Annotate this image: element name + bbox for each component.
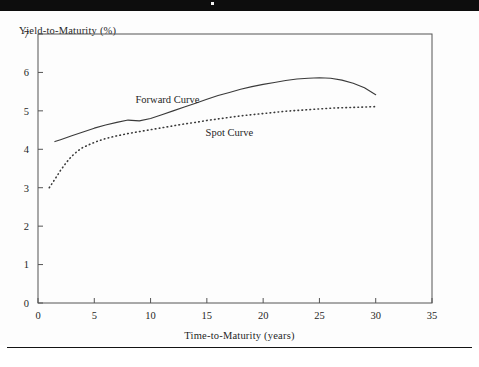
plot-frame <box>38 34 432 303</box>
y-tick-label: 5 <box>24 106 29 117</box>
chart-figure: Yield-to-Maturity (%) 01234567 051015202… <box>0 11 479 345</box>
bottom-divider-rule <box>7 347 472 348</box>
x-tick-label: 10 <box>145 310 156 321</box>
y-tick-label: 4 <box>24 144 30 155</box>
x-tick-label: 35 <box>427 310 438 321</box>
x-tick-label: 20 <box>258 310 269 321</box>
y-tick-label: 0 <box>24 298 29 309</box>
plot-border <box>38 34 432 303</box>
y-tick-label: 1 <box>24 259 29 270</box>
x-tick-label: 30 <box>370 310 381 321</box>
x-axis-title: Time-to-Maturity (years) <box>0 330 479 341</box>
y-tick-label: 3 <box>24 183 29 194</box>
top-black-bar <box>0 0 479 11</box>
y-tick-label: 2 <box>24 221 29 232</box>
y-tick-label: 7 <box>24 29 29 40</box>
chart-series-labels: Forward CurveSpot Curve <box>136 94 254 138</box>
x-tick-label: 5 <box>92 310 97 321</box>
top-bar-artifact <box>211 2 214 5</box>
x-axis-ticks <box>38 298 432 303</box>
series-label-spot-curve: Spot Curve <box>206 127 254 138</box>
y-axis-ticks <box>38 34 43 303</box>
x-tick-label: 25 <box>314 310 325 321</box>
y-axis-tick-labels: 01234567 <box>24 29 30 309</box>
x-axis-tick-labels: 05101520253035 <box>35 310 437 321</box>
series-line-spot-curve <box>49 107 375 188</box>
x-tick-label: 0 <box>35 310 40 321</box>
y-tick-label: 6 <box>24 67 29 78</box>
series-label-forward-curve: Forward Curve <box>136 94 200 105</box>
line-chart-plot: 01234567 05101520253035 Forward CurveSpo… <box>0 11 479 345</box>
x-tick-label: 15 <box>202 310 213 321</box>
